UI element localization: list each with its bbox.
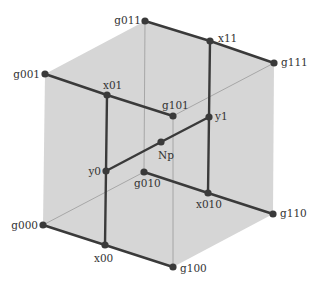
label-y0: y0: [87, 165, 101, 177]
label-x11: x11: [218, 32, 237, 44]
node-x010: [204, 189, 211, 196]
label-x00: x00: [94, 252, 113, 264]
node-x00: [101, 241, 108, 248]
node-g000: [39, 221, 46, 228]
node-x01: [103, 91, 110, 98]
label-g010: g010: [134, 177, 161, 189]
edge-x01-y0: [106, 95, 107, 171]
node-Np: [157, 138, 164, 145]
cube-diagram: g011g001x01x11g111g101y1Npy0g010x010g110…: [0, 0, 317, 293]
node-g101: [169, 112, 176, 119]
node-g011: [141, 17, 148, 24]
edge-y1-x010: [208, 117, 209, 193]
label-g101: g101: [162, 99, 189, 111]
node-g111: [270, 59, 277, 66]
edge-x11-y1: [209, 41, 210, 117]
label-y1: y1: [214, 110, 228, 122]
node-y0: [102, 167, 109, 174]
label-g100: g100: [180, 262, 207, 274]
label-x01: x01: [103, 79, 122, 91]
edge-y0-x00: [105, 171, 106, 245]
label-g011: g011: [114, 14, 141, 26]
label-g110: g110: [280, 207, 307, 219]
node-y1: [205, 113, 212, 120]
node-g010: [140, 168, 147, 175]
label-x010: x010: [196, 198, 222, 210]
node-x11: [206, 37, 213, 44]
node-g100: [169, 263, 176, 270]
label-g001: g001: [13, 68, 40, 80]
label-Np: Np: [158, 149, 174, 161]
label-g111: g111: [281, 56, 308, 68]
node-g110: [269, 210, 276, 217]
label-g000: g000: [11, 219, 38, 231]
node-g001: [41, 70, 48, 77]
